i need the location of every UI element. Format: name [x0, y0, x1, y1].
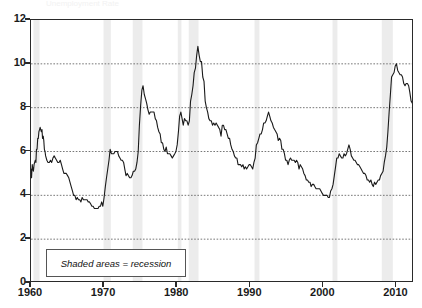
gridlines: [31, 64, 413, 239]
legend-label: Shaded areas = recession: [61, 258, 172, 269]
legend-box: Shaded areas = recession: [46, 249, 186, 277]
x-axis-tick-mark: [175, 282, 177, 287]
x-axis-tick-label: 1960: [18, 287, 42, 298]
x-axis-tick-label: 1980: [164, 287, 188, 298]
x-axis-tick-label: 2010: [383, 287, 407, 298]
plot-area: [30, 19, 413, 282]
y-axis-tick-label: 8: [0, 101, 26, 112]
y-axis-tick-mark: [25, 18, 30, 20]
x-axis-tick-mark: [102, 282, 104, 287]
recession-band: [333, 20, 338, 282]
recession-bands: [33, 20, 392, 282]
chart-canvas: [31, 20, 413, 282]
x-axis-tick-label: 1970: [91, 287, 115, 298]
x-axis-tick-mark: [29, 282, 31, 287]
x-axis-tick-mark: [249, 282, 251, 287]
x-axis-tick-mark: [322, 282, 324, 287]
y-axis-tick-mark: [25, 150, 30, 152]
x-axis-tick-mark: [395, 282, 397, 287]
y-axis-tick-label: 4: [0, 188, 26, 199]
x-axis-tick-label: 2000: [310, 287, 334, 298]
recession-band: [178, 20, 182, 282]
recession-band: [382, 20, 393, 282]
x-axis-tick-label: 1990: [237, 287, 261, 298]
y-axis-tick-mark: [25, 106, 30, 108]
y-axis-tick-label: 2: [0, 232, 26, 243]
chart-title: Unemployment Rate: [46, 0, 119, 8]
y-axis-tick-mark: [25, 237, 30, 239]
y-axis-tick-label: 12: [0, 13, 26, 24]
recession-band: [189, 20, 199, 282]
y-axis-tick-mark: [25, 62, 30, 64]
y-axis-tick-mark: [25, 194, 30, 196]
y-axis-tick-label: 6: [0, 145, 26, 156]
recession-band: [133, 20, 143, 282]
unemployment-rate-chart: Unemployment Rate 024681012 196019701980…: [0, 0, 422, 308]
unemployment-line: [31, 46, 413, 208]
y-axis-tick-label: 10: [0, 57, 26, 68]
